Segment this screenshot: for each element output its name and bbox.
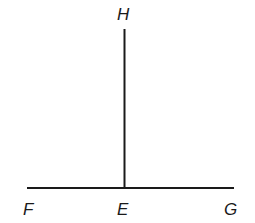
label-f: F [23, 200, 35, 219]
label-g: G [224, 200, 237, 219]
label-h: H [117, 5, 130, 24]
perpendicular-diagram: H F E G [0, 0, 255, 223]
label-e: E [117, 200, 129, 219]
